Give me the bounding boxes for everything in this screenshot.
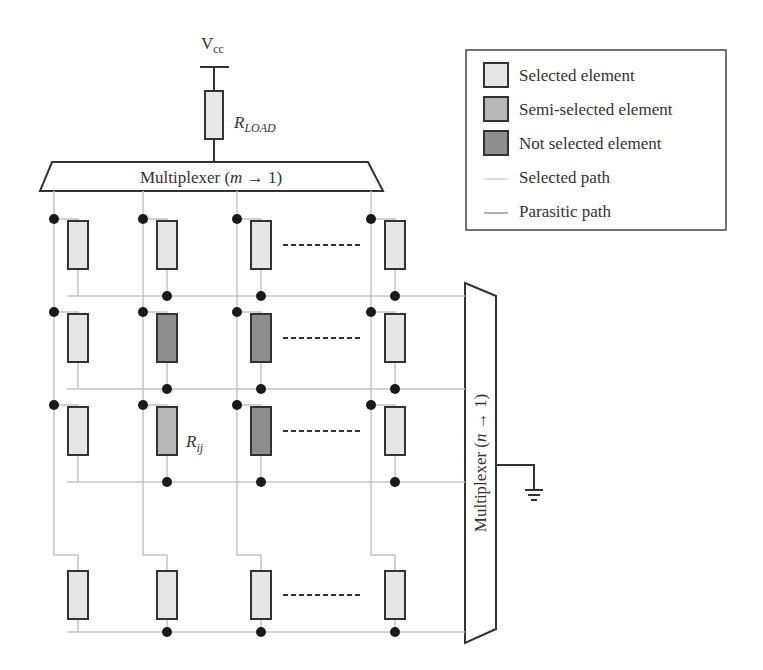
crossbar-grid bbox=[49, 191, 465, 637]
crossbar-diagram: Vcc RLOAD Multiplexer (m → 1) Multiplexe… bbox=[0, 0, 763, 670]
legend-label: Semi-selected element bbox=[519, 100, 673, 119]
legend-item: Selected element bbox=[484, 63, 635, 87]
legend-swatch-icon bbox=[484, 131, 508, 155]
legend-label: Not selected element bbox=[519, 134, 662, 153]
memristor-cell bbox=[143, 552, 177, 637]
memristor-cell bbox=[237, 552, 271, 637]
memristor-cell bbox=[54, 552, 88, 632]
memristor-cell bbox=[371, 552, 405, 637]
legend-swatch-icon bbox=[484, 63, 508, 87]
memristor-cell bbox=[49, 214, 88, 296]
legend: Selected elementSemi-selected elementNot… bbox=[466, 50, 726, 230]
memristor-cell bbox=[366, 307, 405, 394]
row-mux-label: Multiplexer (n → 1) bbox=[471, 394, 490, 532]
memristor-cell bbox=[138, 400, 177, 487]
rload-label: RLOAD bbox=[233, 113, 276, 135]
memristor-cell bbox=[232, 307, 271, 394]
vcc-supply: Vcc bbox=[200, 34, 229, 91]
vcc-label: Vcc bbox=[201, 34, 224, 56]
row-multiplexer: Multiplexer (n → 1) bbox=[465, 283, 543, 643]
legend-swatch-icon bbox=[484, 97, 508, 121]
column-mux-label: Multiplexer (m → 1) bbox=[140, 168, 282, 187]
memristor-cell bbox=[49, 307, 88, 389]
legend-label: Selected path bbox=[519, 168, 611, 187]
memristor-cell bbox=[49, 400, 88, 482]
memristor-cell bbox=[138, 214, 177, 301]
memristor-cell bbox=[232, 214, 271, 301]
legend-label: Selected element bbox=[519, 66, 635, 85]
rij-label: Rij bbox=[185, 432, 204, 455]
memristor-cell bbox=[232, 400, 271, 487]
memristor-cell bbox=[366, 400, 405, 487]
ground-icon bbox=[496, 465, 543, 500]
column-multiplexer: Multiplexer (m → 1) bbox=[40, 162, 383, 191]
memristor-cell bbox=[138, 307, 177, 394]
load-resistor: RLOAD bbox=[205, 91, 276, 162]
memristor-cell bbox=[366, 214, 405, 301]
legend-label: Parasitic path bbox=[519, 202, 612, 221]
